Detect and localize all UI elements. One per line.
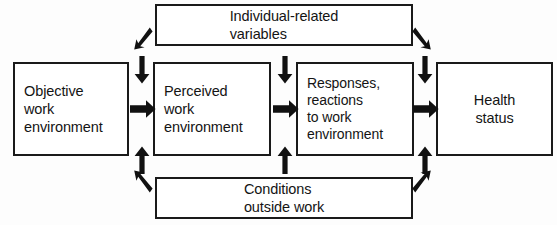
arrow-down-icon bbox=[417, 56, 433, 84]
node-objective-work-environment: Objective work environment bbox=[13, 62, 129, 156]
diagram-canvas: Individual-related variables Objective w… bbox=[0, 0, 557, 225]
node-health-status: Health status bbox=[436, 62, 553, 156]
arrow-diagonal-up-left-icon bbox=[133, 170, 153, 194]
arrow-up-icon bbox=[277, 146, 293, 174]
arrow-down-icon bbox=[277, 56, 293, 84]
arrow-diagonal-down-right-icon bbox=[412, 26, 432, 50]
node-conditions-outside-work: Conditions outside work bbox=[155, 177, 413, 219]
arrow-right-icon bbox=[130, 99, 156, 119]
node-individual-related-variables-label: Individual-related variables bbox=[230, 7, 339, 44]
arrow-down-icon bbox=[134, 56, 150, 84]
node-health-status-label: Health status bbox=[438, 91, 551, 128]
arrow-right-icon bbox=[273, 99, 299, 119]
node-responses-reactions-to-work-environment: Responses, reactions to work environment bbox=[296, 62, 414, 156]
arrow-right-icon bbox=[413, 99, 439, 119]
node-perceived-work-environment: Perceived work environment bbox=[153, 62, 271, 156]
node-perceived-work-environment-label: Perceived work environment bbox=[155, 82, 243, 137]
node-individual-related-variables: Individual-related variables bbox=[155, 4, 413, 46]
node-objective-work-environment-label: Objective work environment bbox=[15, 82, 103, 137]
arrow-diagonal-up-right-icon bbox=[412, 170, 432, 194]
node-responses-reactions-label: Responses, reactions to work environment bbox=[298, 75, 383, 142]
node-conditions-outside-work-label: Conditions outside work bbox=[244, 180, 324, 217]
arrow-diagonal-down-left-icon bbox=[133, 26, 153, 50]
